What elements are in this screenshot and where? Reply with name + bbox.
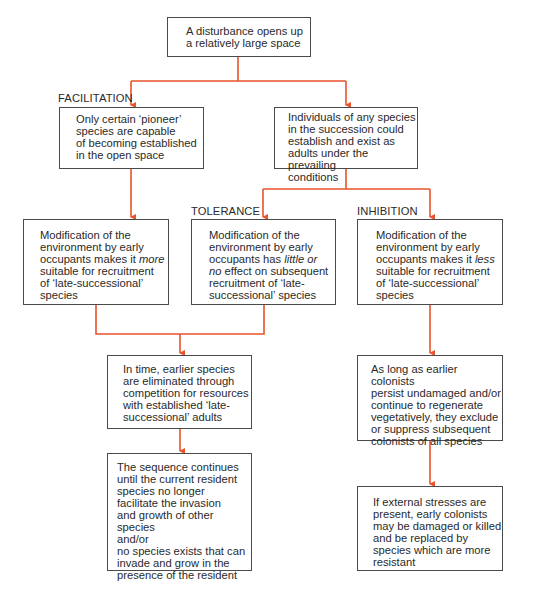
text-part: Modification of the environment by early…	[376, 229, 480, 265]
text-part: suitable for recruitment of ‘late-succes…	[40, 265, 154, 301]
disturbance-text: A disturbance opens up a relatively larg…	[186, 25, 303, 49]
text-part: effect on subsequent recruitment of ‘lat…	[209, 265, 328, 301]
stresses-text: If external stresses are present, early …	[373, 496, 501, 568]
persist-text: As long as earlier colonists persist und…	[371, 363, 502, 447]
sequence-box: The sequence continues until the current…	[107, 453, 252, 571]
facilitation-modification-box: Modification of the environment by early…	[23, 219, 169, 305]
facilitation-label: FACILITATION	[58, 92, 133, 104]
emphasis-more: more	[139, 253, 165, 265]
eliminated-box: In time, earlier species are eliminated …	[107, 355, 252, 429]
persist-box: As long as earlier colonists persist und…	[357, 355, 503, 441]
emphasis-less: less	[475, 253, 495, 265]
inhibition-modification-text: Modification of the environment by early…	[376, 229, 495, 301]
pioneer-text: Only certain ‘pioneer’ species are capab…	[76, 113, 197, 161]
disturbance-box: A disturbance opens up a relatively larg…	[167, 17, 311, 57]
tolerance-modification-text: Modification of the environment by early…	[209, 229, 328, 301]
tolerance-label: TOLERANCE	[191, 205, 260, 217]
text-part: Modification of the environment by early…	[40, 229, 144, 265]
any-species-box: Individuals of any species in the succes…	[274, 107, 418, 169]
pioneer-box: Only certain ‘pioneer’ species are capab…	[59, 107, 204, 169]
stresses-box: If external stresses are present, early …	[357, 486, 503, 571]
sequence-text: The sequence continues until the current…	[117, 461, 251, 581]
text-part: suitable for recruitment of ‘late-succes…	[376, 265, 490, 301]
inhibition-modification-box: Modification of the environment by early…	[357, 219, 503, 305]
tolerance-modification-box: Modification of the environment by early…	[191, 219, 336, 305]
inhibition-label: INHIBITION	[357, 205, 418, 217]
facilitation-modification-text: Modification of the environment by early…	[40, 229, 164, 301]
any-species-text: Individuals of any species in the succes…	[288, 111, 417, 183]
eliminated-text: In time, earlier species are eliminated …	[123, 363, 249, 423]
